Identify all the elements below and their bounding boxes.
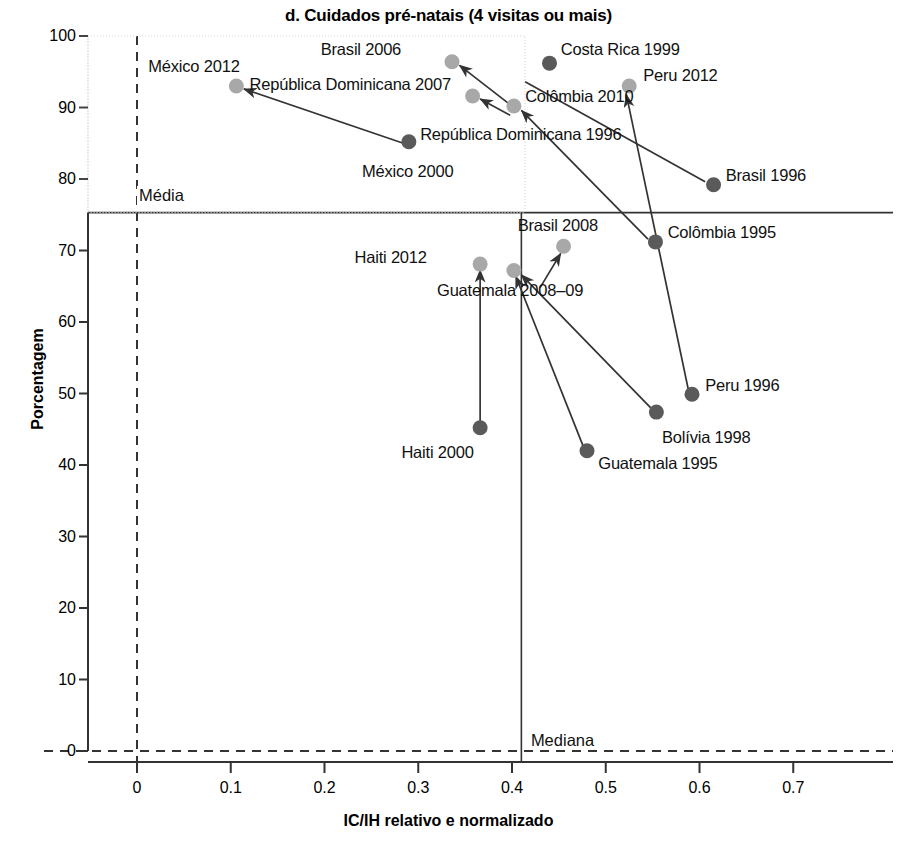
point-label: República Dominicana 1996 [420,125,621,144]
y-tick-label: 80 [14,170,76,188]
x-tick-label: 0.1 [220,779,242,797]
point-label: Brasil 1996 [726,166,806,185]
y-tick-label: 90 [14,99,76,117]
connector-guatemala-1995-to-guatemala-2008 [516,276,584,446]
data-point [542,56,557,71]
y-tick-label: 0 [14,742,76,760]
x-tick-label: 0.3 [407,779,429,797]
connector-mexico-2000-to-mexico-2012 [244,89,403,143]
point-label: Guatemala 2008–09 [437,281,583,300]
x-tick-label: 0.7 [782,779,804,797]
point-label: México 2012 [148,57,239,76]
point-label: Peru 2012 [643,66,717,85]
data-point [473,420,488,435]
y-tick-label: 10 [14,671,76,689]
axes-layer [79,36,893,773]
connectors-layer [244,65,705,446]
point-label: Bolívia 1998 [662,428,750,447]
data-point [465,89,480,104]
x-tick-label: 0.4 [501,779,523,797]
x-axis-label: IC/IH relativo e normalizado [0,812,897,830]
point-label: Brasil 2008 [518,216,598,235]
x-tick-label: 0 [133,779,142,797]
data-point [648,234,663,249]
point-label: Peru 1996 [705,376,779,395]
data-point [506,263,521,278]
data-point [706,177,721,192]
x-tick-label: 0.5 [595,779,617,797]
x-tick-label: 0.6 [688,779,710,797]
reference-lines-layer [44,36,893,773]
point-label: Guatemala 1995 [598,454,717,473]
refline-label-mediana: Mediana [529,731,596,750]
point-label: Haiti 2012 [355,248,427,267]
data-point [506,99,521,114]
point-label: Costa Rica 1999 [561,40,680,59]
point-label: Haiti 2000 [401,443,473,462]
y-tick-label: 30 [14,528,76,546]
data-points-layer [229,54,721,458]
data-point [401,134,416,149]
chart-figure: d. Cuidados pré-natais (4 visitas ou mai… [0,0,897,842]
y-tick-label: 100 [14,27,76,45]
point-label: Brasil 2006 [321,40,401,59]
data-point [445,54,460,69]
point-label: República Dominicana 2007 [250,75,451,94]
y-tick-label: 70 [14,242,76,260]
y-tick-label: 20 [14,599,76,617]
data-point [473,257,488,272]
x-tick-label: 0.2 [313,779,335,797]
point-label: Colômbia 1995 [668,223,776,242]
point-label: México 2000 [362,162,453,181]
y-axis-label: Porcentagem [29,299,47,459]
data-point [649,405,664,420]
data-point [685,387,700,402]
refline-label-media: Média [137,186,186,205]
point-label: Colômbia 2010 [525,87,633,106]
data-point [580,443,595,458]
data-point [229,79,244,94]
data-point [556,239,571,254]
